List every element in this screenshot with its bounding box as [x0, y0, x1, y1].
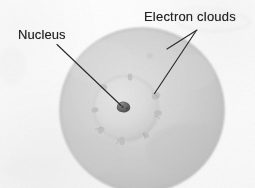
- label-electron-clouds: Electron clouds: [144, 10, 236, 24]
- atom-diagram-figure: Nucleus Electron clouds: [0, 0, 255, 188]
- label-nucleus: Nucleus: [18, 28, 66, 42]
